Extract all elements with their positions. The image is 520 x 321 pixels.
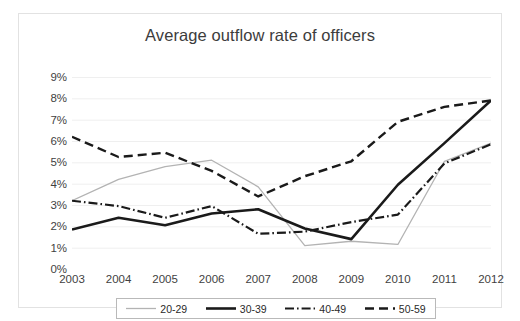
legend-item-50-59[interactable]: 50-59 xyxy=(365,303,426,315)
legend-label: 50-59 xyxy=(399,303,426,315)
x-axis-tick-label: 2012 xyxy=(466,273,516,285)
legend-item-40-49[interactable]: 40-49 xyxy=(285,303,346,315)
chart-legend: 20-2930-3940-4950-59 xyxy=(116,298,436,319)
x-axis-tick-label: 2010 xyxy=(373,273,423,285)
plot-svg xyxy=(72,77,491,269)
x-axis-tick-label: 2003 xyxy=(47,273,97,285)
y-axis-tick-label: 4% xyxy=(37,178,67,190)
y-axis-tick-label: 6% xyxy=(37,135,67,147)
y-axis-tick-label: 2% xyxy=(37,220,67,232)
y-axis-tick-label: 7% xyxy=(37,114,67,126)
line-thin-light-swatch xyxy=(126,303,156,314)
legend-label: 30-39 xyxy=(240,303,267,315)
y-axis-tick-label: 9% xyxy=(37,71,67,83)
y-axis-tick-label: 1% xyxy=(37,242,67,254)
series-line-30-39 xyxy=(72,100,491,239)
x-axis-tick-label: 2009 xyxy=(326,273,376,285)
legend-item-20-29[interactable]: 20-29 xyxy=(126,303,187,315)
plot-area xyxy=(72,77,491,269)
line-thick-dark-swatch xyxy=(206,303,236,314)
chart-title: Average outflow rate of officers xyxy=(19,26,501,45)
x-axis-tick-label: 2011 xyxy=(419,273,469,285)
y-axis-tick-label: 5% xyxy=(37,156,67,168)
legend-label: 40-49 xyxy=(319,303,346,315)
legend-item-30-39[interactable]: 30-39 xyxy=(206,303,267,315)
chart-container: Average outflow rate of officers 9%8%7%6… xyxy=(18,13,502,308)
x-axis-tick-label: 2008 xyxy=(280,273,330,285)
x-axis-tick-label: 2005 xyxy=(140,273,190,285)
line-dashed-swatch xyxy=(365,303,395,314)
x-axis-tick-label: 2004 xyxy=(94,273,144,285)
y-axis: 9%8%7%6%5%4%3%2%1%0% xyxy=(37,77,67,269)
line-dash-dot-swatch xyxy=(285,303,315,314)
y-axis-tick-label: 8% xyxy=(37,92,67,104)
legend-label: 20-29 xyxy=(160,303,187,315)
y-axis-tick-label: 3% xyxy=(37,199,67,211)
x-axis-tick-label: 2007 xyxy=(233,273,283,285)
x-axis-tick-label: 2006 xyxy=(187,273,237,285)
x-axis: 2003200420052006200720082009201020112012 xyxy=(72,273,491,291)
